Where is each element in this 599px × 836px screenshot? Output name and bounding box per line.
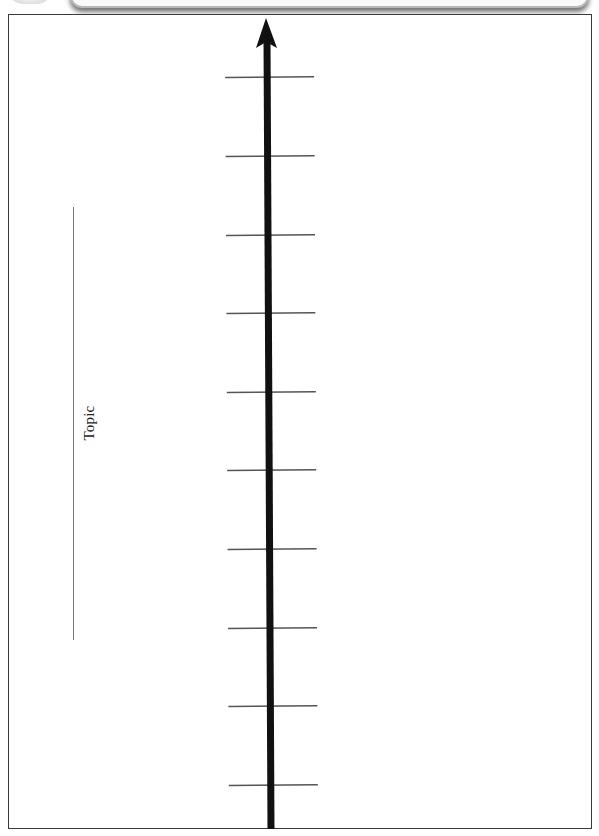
timeline bbox=[0, 0, 599, 836]
timeline-axis bbox=[267, 40, 271, 829]
